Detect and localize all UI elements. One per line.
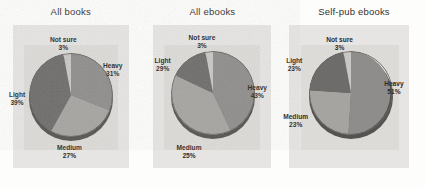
page-title: All books: [0, 6, 142, 17]
slice-label-light: Light 29%: [155, 57, 171, 73]
slice-label-heavy: Heavy 43%: [248, 84, 267, 100]
slice-label-not-sure: Not sure 3%: [326, 36, 353, 52]
chart-panel-all-ebooks: All ebooks Not sure 3%: [142, 0, 284, 188]
slice-label-not-sure: Not sure 3%: [189, 34, 216, 50]
chart-panel-all-books: All books Not sure 3%: [0, 0, 142, 188]
pie-slices: [171, 51, 255, 135]
slice-label-light: Light 39%: [9, 91, 25, 107]
slice-label-heavy: Heavy 51%: [384, 80, 403, 96]
slice-label-not-sure: Not sure 3%: [50, 36, 77, 52]
slice-label-light: Light 23%: [286, 57, 302, 73]
chart-panel-self-pub-ebooks: Self-pub ebooks Not sure: [283, 0, 425, 188]
pie-disc: [171, 51, 255, 135]
pie-disc: [309, 51, 393, 135]
pie-disc: [29, 53, 113, 137]
slice-label-medium: Medium 23%: [283, 113, 308, 129]
page-title: Self-pub ebooks: [283, 6, 425, 17]
pie-chart-figure: All books Not sure 3%: [0, 0, 425, 188]
pie-chart-self-pub-ebooks: [309, 51, 393, 135]
slice-label-medium: Medium 27%: [57, 144, 82, 160]
pie-chart-all-books: [29, 53, 113, 137]
slice-label-medium: Medium 25%: [177, 144, 202, 160]
pie-slices: [29, 53, 113, 137]
page-title: All ebooks: [142, 6, 284, 17]
pie-slices: [309, 51, 393, 135]
slice-label-heavy: Heavy 31%: [103, 62, 122, 78]
pie-chart-all-ebooks: [171, 51, 255, 135]
pie-slice-medium: [309, 90, 351, 135]
